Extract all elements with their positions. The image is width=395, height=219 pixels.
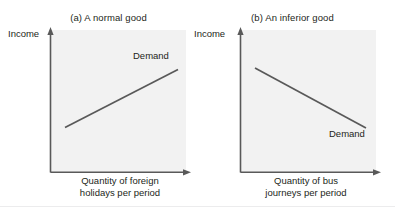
panel-b-demand-label: Demand (329, 128, 365, 140)
footer-divider (0, 206, 395, 207)
panel-a-x-axis-label-line2: holidays per period (80, 187, 160, 198)
panel-inferior-good: (b) An inferior good Income Demand Quant… (190, 0, 387, 205)
economics-figure: (a) A normal good Income Demand Quantity… (0, 0, 395, 219)
panel-b-x-axis-label-line1: Quantity of bus (274, 175, 338, 186)
panel-a-demand-label: Demand (133, 50, 169, 62)
panel-b-x-axis-label-line2: journeys per period (265, 187, 346, 198)
panel-a-x-axis-label-line1: Quantity of foreign (81, 175, 159, 186)
panel-b-plot-background (241, 30, 376, 172)
panel-b-x-axis-label: Quantity of bus journeys per period (232, 175, 380, 198)
panel-a-x-axis-label: Quantity of foreign holidays per period (46, 175, 194, 198)
panel-normal-good: (a) A normal good Income Demand Quantity… (0, 0, 197, 205)
